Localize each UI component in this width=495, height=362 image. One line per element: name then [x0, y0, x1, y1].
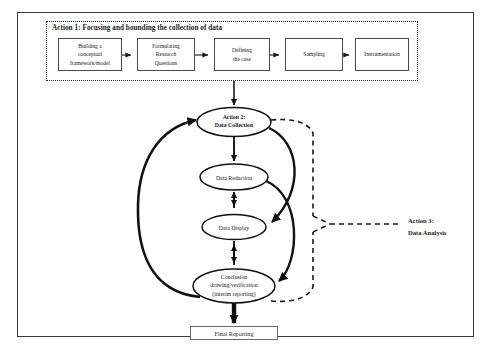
final-reporting-label: Final Reporting [214, 330, 253, 337]
process-box-formulating-questions: Formulating Research Questions [137, 38, 195, 71]
scan-caption [6, 0, 486, 9]
final-reporting-box: Final Reporting [190, 326, 278, 340]
node-label-line: Data Display [219, 225, 249, 231]
process-box-line: conceptual [70, 50, 110, 58]
node-label-conclusion: Conclusion drawing/verification (interim… [189, 273, 279, 298]
node-label-line: (interim reporting) [212, 291, 255, 297]
process-box-line: Questions [152, 59, 180, 67]
process-box-line: framework/model [70, 59, 110, 67]
action3-line: Data Analysis [408, 229, 447, 236]
node-label-line: drawing/verification [210, 282, 257, 288]
action3-line: Action 3: [408, 217, 434, 224]
action3-label: Action 3: Data Analysis [408, 215, 447, 239]
process-box-line: Instrumentation [364, 50, 399, 58]
node-label-data-reduction: Data Reduction [194, 174, 274, 182]
node-label-line: Data Reduction [216, 175, 252, 181]
node-label-data-collection: Action 2: Data Collection [194, 113, 274, 130]
process-box-line: Defining [232, 46, 252, 54]
process-box-line: Sampling [303, 50, 324, 58]
process-box-defining-case: Defining the case [214, 38, 270, 71]
process-box-sampling: Sampling [285, 38, 343, 71]
node-label-data-display: Data Display [194, 224, 274, 232]
node-label-line: Conclusion [221, 274, 247, 280]
process-box-line: Building a [70, 42, 110, 50]
action1-title: Action 1: Focusing and bounding the coll… [52, 24, 222, 32]
process-box-line: Formulating [152, 42, 180, 50]
process-box-line: the case [232, 55, 252, 63]
process-box-instrumentation: Instrumentation [355, 38, 409, 71]
node-label-line: Action 2: [223, 114, 246, 120]
process-box-line: Research [152, 50, 180, 58]
process-box-building-framework: Building a conceptual framework/model [58, 38, 122, 71]
node-label-line: Data Collection [215, 122, 253, 128]
